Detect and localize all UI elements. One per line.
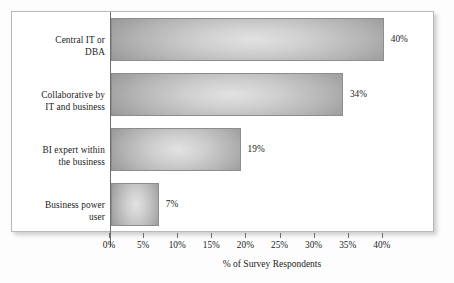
x-tick-label: 15%: [203, 240, 220, 250]
bar-bi-expert-within-the-business[interactable]: [111, 128, 241, 171]
bar-value-label: 40%: [391, 18, 408, 61]
x-tick-label: 25%: [271, 240, 288, 250]
category-label-line: the business: [9, 157, 105, 169]
x-tick-mark: [348, 233, 349, 238]
category-label-central-it-or-dba: Central IT or DBA: [9, 35, 105, 58]
category-label-line: BI expert within: [9, 145, 105, 157]
chart-page: Central IT or DBA Collaborative by IT an…: [0, 0, 454, 283]
bar-value-label: 34%: [350, 73, 367, 116]
bar-value-label: 19%: [248, 128, 265, 171]
x-tick-label: 30%: [305, 240, 322, 250]
x-tick-mark: [314, 233, 315, 238]
x-tick-label: 35%: [339, 240, 356, 250]
category-label-line: IT and business: [9, 102, 105, 114]
chart-frame: Central IT or DBA Collaborative by IT an…: [11, 11, 434, 232]
x-tick-mark: [177, 233, 178, 238]
category-label-collaborative-by-it-and-business: Collaborative by IT and business: [9, 90, 105, 113]
bar-collaborative-by-it-and-business[interactable]: [111, 73, 343, 116]
x-tick-mark: [211, 233, 212, 238]
x-tick-label: 5%: [137, 240, 149, 250]
bar-central-it-or-dba[interactable]: [111, 18, 384, 61]
x-tick-mark: [382, 233, 383, 238]
category-label-line: Central IT or: [9, 35, 105, 47]
category-label-line: Collaborative by: [9, 90, 105, 102]
x-tick-label: 20%: [237, 240, 254, 250]
x-tick-label: 0%: [103, 240, 115, 250]
plot-area: Central IT or DBA Collaborative by IT an…: [12, 12, 433, 231]
x-tick-label: 40%: [373, 240, 390, 250]
x-axis-title: % of Survey Respondents: [110, 259, 434, 269]
category-label-business-power-user: Business power user: [9, 200, 105, 223]
category-label-line: Business power: [9, 200, 105, 212]
x-tick-mark: [245, 233, 246, 238]
category-label-bi-expert-within-the-business: BI expert within the business: [9, 145, 105, 168]
bar-value-label: 7%: [166, 183, 178, 226]
bar-business-power-user[interactable]: [111, 183, 159, 226]
category-label-line: user: [9, 212, 105, 224]
x-tick-mark: [280, 233, 281, 238]
x-tick-label: 10%: [169, 240, 186, 250]
category-label-line: DBA: [9, 47, 105, 59]
x-tick-mark: [143, 233, 144, 238]
